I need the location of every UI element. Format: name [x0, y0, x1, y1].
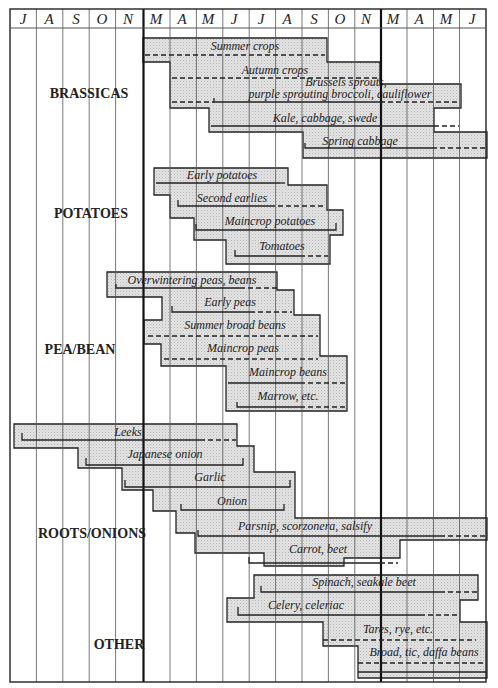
- crop-label: Onion: [217, 494, 247, 508]
- month-header: J A S O N M A M J J A S O N M A M J: [20, 11, 477, 27]
- crop-label: Tares, rye, etc.: [363, 622, 433, 636]
- month-label: J: [469, 11, 477, 27]
- month-label: A: [43, 11, 54, 27]
- crop-label: Summer crops: [211, 39, 280, 53]
- month-label: A: [176, 11, 187, 27]
- roots-band: [14, 424, 487, 566]
- month-label: O: [97, 11, 108, 27]
- month-label: S: [72, 11, 80, 27]
- month-label: J: [231, 11, 239, 27]
- crop-label: Maincrop beans: [248, 365, 327, 379]
- crop-label: Celery, celeriac: [268, 598, 345, 612]
- crop-label: Maincrop potatoes: [224, 214, 316, 228]
- category-pea-bean: PEA/BEAN: [45, 342, 116, 357]
- month-label: M: [386, 11, 401, 27]
- month-label: M: [439, 11, 454, 27]
- category-other: OTHER: [94, 637, 145, 652]
- crop-label: Marrow, etc.: [257, 389, 319, 403]
- crop-label: Parsnip, scorzonera, salsify: [237, 519, 373, 533]
- crop-calendar-chart: J A S O N M A M J J A S O N M A M J: [0, 0, 498, 688]
- crop-label: Second earlies: [197, 191, 268, 205]
- month-label: J: [20, 11, 28, 27]
- crop-label: Spinach, seakale beet: [312, 575, 416, 589]
- crop-label: Early potatoes: [186, 168, 258, 182]
- month-label: A: [413, 11, 424, 27]
- crop-label: purple sprouting broccoli, cauliflower: [247, 87, 431, 101]
- month-label: S: [310, 11, 318, 27]
- crop-label: Autumn crops: [241, 63, 309, 77]
- crop-label: Leeks: [113, 425, 142, 439]
- category-potatoes: POTATOES: [54, 206, 128, 221]
- crop-label: Tomatoes: [259, 239, 305, 253]
- month-label: J: [258, 11, 266, 27]
- crop-label: Kale, cabbage, swede: [272, 111, 378, 125]
- month-label: N: [122, 11, 134, 27]
- category-roots-onions: ROOTS/ONIONS: [38, 526, 146, 541]
- crop-label: Garlic: [194, 470, 226, 484]
- roots-bands: [14, 424, 487, 566]
- crop-label: Maincrop peas: [206, 341, 279, 355]
- month-label: A: [281, 11, 292, 27]
- crop-label: Broad, tic, daffa beans: [369, 645, 479, 659]
- crop-label: Spring cabbage: [322, 134, 398, 148]
- crop-label: Overwintering peas, beans: [128, 273, 257, 287]
- month-label: M: [201, 11, 216, 27]
- category-labels: BRASSICAS POTATOES PEA/BEAN ROOTS/ONIONS…: [38, 86, 146, 652]
- crop-label: Summer broad beans: [184, 318, 286, 332]
- month-label: O: [335, 11, 346, 27]
- crop-label: Early peas: [203, 295, 256, 309]
- month-label: M: [149, 11, 164, 27]
- category-brassicas: BRASSICAS: [50, 86, 129, 101]
- crop-label: Carrot, beet: [289, 542, 348, 556]
- month-label: N: [360, 11, 372, 27]
- crop-label: Japanese onion: [128, 447, 203, 461]
